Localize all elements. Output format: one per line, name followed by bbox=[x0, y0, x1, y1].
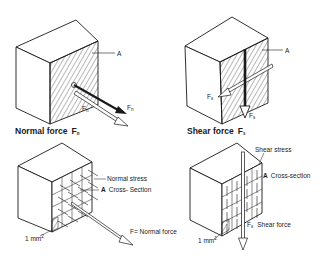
force-stress-diagram: A Fn Fn Normal forceFn A Fs Fs Shear for… bbox=[0, 0, 330, 259]
normal-force-label: F= Normal force bbox=[130, 228, 177, 235]
cross-section-label: ACross-section bbox=[263, 172, 311, 179]
panel-normal-stress: Normal stress ACross- Section F= Normal … bbox=[18, 143, 177, 245]
shear-stress-label: Shear stress bbox=[255, 146, 292, 153]
cube-shear-force bbox=[185, 17, 268, 124]
area-label: A bbox=[285, 47, 290, 54]
panel-shear-force: A Fs Fs Shear forceFs bbox=[185, 17, 290, 136]
area-label: A bbox=[117, 50, 122, 57]
unit-area-label: 1 mm2 bbox=[25, 234, 44, 242]
panel-shear-stress: Shear stress ACross-section FsShear forc… bbox=[190, 143, 311, 250]
force-label-fn-tip: Fn bbox=[127, 104, 134, 112]
caption-normal-force: Normal forceFn bbox=[15, 126, 80, 136]
force-label-fs-vertical: Fs bbox=[249, 112, 256, 120]
shear-force-label: FsShear force bbox=[247, 221, 291, 229]
resultant-normal-force-arrow bbox=[71, 202, 133, 245]
cross-section-label: ACross- Section bbox=[101, 186, 152, 193]
unit-area-label: 1 mm2 bbox=[198, 236, 217, 244]
caption-shear-force: Shear forceFs bbox=[187, 126, 246, 136]
normal-stress-label: Normal stress bbox=[107, 175, 148, 182]
panel-normal-force: A Fn Fn Normal forceFn bbox=[15, 20, 134, 136]
